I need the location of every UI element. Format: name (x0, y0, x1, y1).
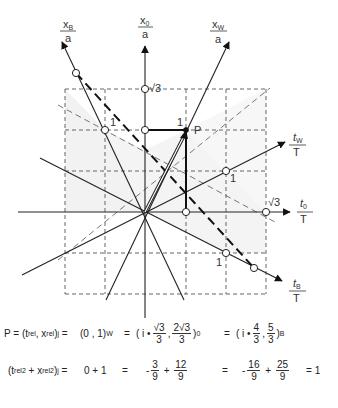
svg-text:xB: xB (63, 18, 74, 31)
axis-label-xW: xW a (210, 18, 227, 45)
svg-text:a: a (142, 28, 149, 40)
tick-1-tB: 1 (216, 256, 222, 268)
formula2-lhs: (trel2 + xrel2)j = (8, 365, 67, 376)
tick-sqrt3-t0: √3 (268, 196, 280, 208)
formula2-result: = 1 (306, 365, 320, 376)
svg-text:T: T (300, 213, 307, 225)
tick-1-xB: 1 (110, 116, 116, 128)
formula2-w-value: 0 + 1 (84, 365, 107, 376)
svg-text:a: a (215, 33, 222, 45)
axis-label-tW: tW T (289, 131, 306, 158)
tick-sqrt3-x0: √3 (149, 82, 161, 94)
spacetime-diagram: P √3 1 1 1 √3 1 xB a x0 a xW a tW T t0 T… (0, 0, 338, 320)
svg-text:tB: tB (293, 277, 301, 290)
svg-text:xW: xW (212, 18, 225, 31)
axis-label-tB: tB T (289, 277, 306, 304)
tick-1-xW: 1 (177, 116, 183, 128)
formula2-B-frame: - 169 + 259 (242, 359, 291, 382)
formula1-lhs: P = (trel, xrel)j = (4, 328, 68, 339)
axis-label-xB: xB a (60, 18, 76, 44)
formula1-0-frame: ( i • √33 , 2√33 )0 (136, 322, 200, 345)
formula2-eq3: = (222, 365, 228, 376)
svg-text:T: T (293, 146, 300, 158)
svg-text:t0: t0 (300, 197, 307, 210)
svg-text:x0: x0 (140, 14, 150, 27)
axis-label-x0: x0 a (138, 14, 153, 40)
formula1-w-frame: (0 , 1)W (80, 328, 113, 339)
formula1-eq2: = (124, 328, 130, 339)
formula-invariant-interval: (trel2 + xrel2)j = 0 + 1 = - 39 + 129 = … (0, 359, 338, 387)
point-p (183, 127, 189, 133)
formula1-eq3: = (224, 328, 230, 339)
axis-label-t0: t0 T (297, 197, 313, 225)
tick-1-tW: 1 (230, 172, 236, 184)
formula2-eq2: = (122, 365, 128, 376)
formula-p-coordinates: P = (trel, xrel)j = (0 , 1)W = ( i • √33… (0, 322, 338, 350)
svg-text:T: T (293, 292, 300, 304)
formula2-0-frame: - 39 + 129 (146, 359, 189, 382)
svg-text:tW: tW (293, 131, 303, 144)
formula1-B-frame: ( i • 43 , 53 )B (236, 322, 285, 345)
svg-text:a: a (65, 32, 72, 44)
point-p-label: P (194, 124, 201, 136)
